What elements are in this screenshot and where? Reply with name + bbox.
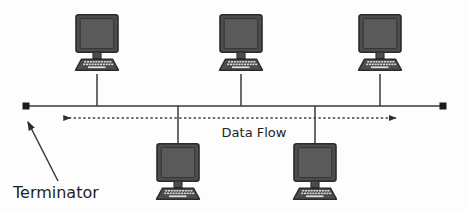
terminator-label: Terminator (12, 183, 99, 202)
computer-icon (76, 15, 119, 70)
terminator-callout-arrow (28, 122, 58, 181)
computer-bottom-1[interactable] (157, 144, 200, 199)
computer-icon (359, 15, 402, 70)
data-flow-label: Data Flow (222, 125, 287, 140)
computer-icon (157, 144, 200, 199)
computer-top-1[interactable] (76, 15, 119, 70)
computer-icon (294, 144, 337, 199)
computer-top-2[interactable] (220, 15, 263, 70)
computer-icon (220, 15, 263, 70)
terminator-right (440, 103, 447, 110)
computer-bottom-2[interactable] (294, 144, 337, 199)
diagram-canvas: Data Flow Terminator (0, 0, 468, 211)
bus-topology-diagram: Data Flow Terminator (0, 0, 468, 211)
computer-top-3[interactable] (359, 15, 402, 70)
terminator-left (23, 103, 30, 110)
drop-lines-top (97, 74, 380, 106)
